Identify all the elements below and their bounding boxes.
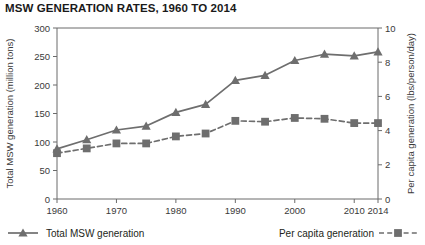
x-axis-tick-label: 2000 [284,205,305,216]
left-axis-tick-label: 0 [45,194,50,205]
chart-container: MSW GENERATION RATES, 1960 TO 2014 05010… [0,0,425,245]
x-axis-tick-label: 2010 [344,205,365,216]
x-axis-tick-label: 1970 [106,205,127,216]
x-axis-tick-label: 1990 [225,205,246,216]
chart-svg: 0501001502002503000246810196019701980199… [0,0,425,245]
data-point [53,149,61,157]
data-point [373,47,382,55]
data-point [291,114,299,122]
left-axis-tick-label: 250 [34,51,50,62]
left-axis-tick-label: 50 [39,165,50,176]
plot-area: 0501001502002503000246810196019701980199… [0,0,425,245]
data-point [113,140,121,148]
series-layer [52,47,382,157]
data-point [202,130,210,138]
right-axis-tick-label: 2 [385,159,390,170]
data-point [350,119,358,127]
data-point [231,117,239,125]
data-point [260,71,269,79]
left-axis-tick-label: 100 [34,137,50,148]
data-point [172,133,180,141]
right-axis-tick-label: 8 [385,57,390,68]
left-axis-title: Total MSW generation (million tons) [4,39,15,189]
legend-marker-square [394,229,402,237]
series-line-square [57,118,378,153]
data-point [142,121,151,129]
right-axis-title: Per capita generation (lbs/person/day) [405,33,416,194]
x-axis-tick-label: 2014 [367,205,388,216]
right-axis-tick-label: 0 [385,194,390,205]
data-point [261,118,269,126]
legend-label-percapita: Per capita generation [279,228,374,239]
left-axis-tick-label: 300 [34,23,50,34]
data-point [374,119,382,127]
left-axis-tick-label: 200 [34,80,50,91]
right-axis-tick-label: 4 [385,125,390,136]
x-axis-tick-label: 1960 [46,205,67,216]
data-point [321,115,329,123]
legend-layer: Total MSW generationPer capita generatio… [8,228,417,239]
series-line-triangle [57,52,378,149]
data-point [83,144,91,152]
x-axis-tick-label: 1980 [165,205,186,216]
right-axis-tick-label: 6 [385,91,390,102]
legend-label-total: Total MSW generation [46,228,144,239]
data-point [142,140,150,148]
right-axis-tick-label: 10 [385,23,396,34]
left-axis-tick-label: 150 [34,108,50,119]
